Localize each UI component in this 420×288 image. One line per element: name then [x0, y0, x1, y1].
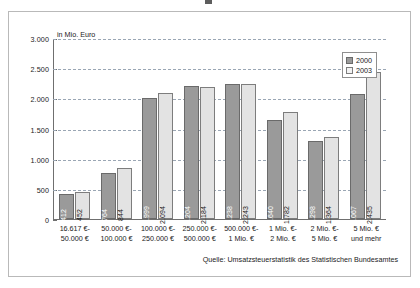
bar-group: 412452	[54, 39, 96, 219]
bar-2003-1: 844	[117, 168, 132, 219]
top-crop-artifact	[205, 0, 212, 4]
x-axis-category-line: 2 Mio. €-	[304, 224, 346, 234]
bar-value-label: 764	[101, 209, 108, 221]
x-axis-category-line: 100.000 €-	[137, 224, 179, 234]
bar-value-label: 2.184	[200, 206, 207, 224]
x-axis-category-line: 16.617 €-	[54, 224, 96, 234]
bar-2003-5: 1.782	[283, 112, 298, 220]
x-axis-category-label: 250.000 €-500.000 €	[179, 224, 221, 243]
bar-2003-4: 2.243	[241, 84, 256, 219]
y-axis-tick-label: 1.500	[31, 125, 50, 134]
y-axis-unit-label: in Mio. Euro	[57, 30, 95, 39]
x-axis-category-label: 100.000 €-250.000 €	[137, 224, 179, 243]
plot-area: 4124527648441.9992.0942.2042.1842.2382.2…	[53, 39, 386, 220]
x-axis-category-line: 50.000 €-	[96, 224, 138, 234]
y-axis-tick-label: 0	[45, 216, 49, 225]
x-axis-category-label: 500.000 €-1 Mio. €	[221, 224, 263, 243]
bar-group: 2.2382.243	[220, 39, 262, 219]
x-axis-category-line: 50.000 €	[54, 234, 96, 244]
y-axis-tick-labels: 05001.0001.5002.0002.5003.000	[17, 39, 49, 220]
bar-value-label: 452	[76, 209, 83, 221]
legend-swatch-2000	[346, 57, 353, 64]
bar-2000-4: 2.238	[225, 84, 240, 219]
bar-2000-5: 1.640	[267, 120, 282, 219]
x-axis-category-line: 100.000 €	[96, 234, 138, 244]
legend-item-2003: 2003	[346, 65, 372, 75]
bar-group: 2.2042.184	[179, 39, 221, 219]
bar-group: 1.6401.782	[262, 39, 304, 219]
legend-label-2000: 2000	[356, 56, 372, 65]
x-axis-category-label: 16.617 €-50.000 €	[54, 224, 96, 243]
bar-2000-7: 2.067	[350, 94, 365, 219]
bar-value-label: 1.782	[283, 206, 290, 224]
bar-value-label: 2.094	[159, 206, 166, 224]
y-axis-tick-label: 3.000	[31, 35, 50, 44]
x-axis-category-label: 2 Mio. €-5 Mio. €	[304, 224, 346, 243]
bar-2003-6: 1.364	[324, 137, 339, 219]
x-axis-category-labels: 16.617 €-50.000 €50.000 €-100.000 €100.0…	[54, 224, 387, 243]
bar-value-label: 1.999	[143, 206, 150, 224]
x-axis-category-line: 2 Mio. €	[262, 234, 304, 244]
x-axis-category-line: 250.000 €	[137, 234, 179, 244]
bar-2000-2: 1.999	[142, 98, 157, 219]
bar-value-label: 2.067	[350, 206, 357, 224]
bar-value-label: 1.640	[267, 206, 274, 224]
bar-2003-2: 2.094	[158, 93, 173, 219]
x-axis-category-label: 5 Mio. €und mehr	[345, 224, 387, 243]
y-axis-tick-mark	[53, 220, 57, 221]
bar-groups: 4124527648441.9992.0942.2042.1842.2382.2…	[54, 39, 386, 219]
bar-value-label: 412	[60, 209, 67, 221]
bar-2000-1: 764	[101, 173, 116, 219]
legend-label-2003: 2003	[356, 66, 372, 75]
bar-2003-7: 2.435	[366, 72, 381, 219]
bar-group: 1.9992.094	[137, 39, 179, 219]
legend: 2000 2003	[342, 52, 377, 78]
legend-item-2000: 2000	[346, 55, 372, 65]
bar-2000-6: 1.298	[308, 141, 323, 219]
x-axis-category-line: 5 Mio. €	[345, 224, 387, 234]
x-axis-category-line: und mehr	[345, 234, 387, 244]
chart-frame: in Mio. Euro 05001.0001.5002.0002.5003.0…	[8, 11, 411, 277]
bar-value-label: 2.204	[184, 206, 191, 224]
x-axis-category-label: 50.000 €-100.000 €	[96, 224, 138, 243]
y-axis-tick-label: 1.000	[31, 155, 50, 164]
source-note: Quelle: Umsatzsteuerstatistik des Statis…	[203, 255, 398, 264]
bar-2003-3: 2.184	[200, 87, 215, 219]
legend-swatch-2003	[346, 67, 353, 74]
bar-value-label: 1.364	[325, 206, 332, 224]
bar-value-label: 844	[117, 209, 124, 221]
bar-value-label: 2.238	[226, 206, 233, 224]
bar-2000-3: 2.204	[184, 86, 199, 219]
x-axis-category-line: 5 Mio. €	[304, 234, 346, 244]
x-axis-category-label: 1 Mio. €-2 Mio. €	[262, 224, 304, 243]
y-axis-tick-label: 2.000	[31, 95, 50, 104]
x-axis-category-line: 500.000 €	[179, 234, 221, 244]
bar-value-label: 2.243	[242, 206, 249, 224]
bar-2003-0: 452	[75, 192, 90, 219]
x-axis-category-line: 500.000 €-	[221, 224, 263, 234]
bar-value-label: 2.435	[366, 206, 373, 224]
bar-value-label: 1.298	[309, 206, 316, 224]
y-axis-tick-label: 2.500	[31, 65, 50, 74]
x-axis-category-line: 1 Mio. €-	[262, 224, 304, 234]
bar-group: 1.2981.364	[303, 39, 345, 219]
bar-2000-0: 412	[59, 194, 74, 219]
x-axis-category-line: 250.000 €-	[179, 224, 221, 234]
y-axis-tick-label: 500	[37, 185, 49, 194]
bar-group: 764844	[96, 39, 138, 219]
x-axis-category-line: 1 Mio. €	[221, 234, 263, 244]
